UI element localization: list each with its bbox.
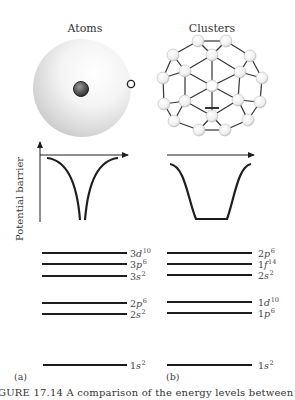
atom-illustration: [33, 39, 135, 137]
level-label-1p6: 1p6: [258, 308, 275, 319]
figure-graphics: [0, 0, 295, 400]
panel-tag-b: (b): [166, 371, 180, 382]
level-label-2p6: 2p6: [130, 298, 147, 309]
figure-caption: GURE 17.14 A comparison of the energy le…: [0, 387, 295, 398]
cluster-energy-levels: [167, 253, 252, 365]
coulomb-well-left-branch: [47, 158, 80, 220]
cluster-illustration: [157, 35, 268, 136]
level-label-3d10: 3d10: [130, 248, 151, 259]
level-label-1f14: 1f14: [258, 259, 276, 270]
atom-potential-plot: [40, 142, 128, 222]
level-label-3s2: 3s2: [130, 271, 146, 282]
level-label-2p6: 2p6: [258, 248, 275, 259]
atom-energy-levels: [42, 253, 127, 365]
level-label-1s2: 1s2: [130, 360, 146, 371]
cluster-potential-plot: [167, 155, 254, 219]
flat-bottom-well: [170, 164, 251, 219]
y-axis-label: Potential barrier: [14, 157, 25, 241]
level-label-3p6: 3p6: [130, 259, 147, 270]
level-label-1s2: 1s2: [258, 360, 274, 371]
nucleus-icon: [74, 82, 89, 97]
coulomb-well-right-branch: [85, 158, 118, 220]
panel-tag-a: (a): [14, 371, 27, 382]
level-label-2s2: 2s2: [130, 309, 146, 320]
electron-icon: [127, 80, 134, 87]
level-label-2s2: 2s2: [258, 270, 274, 281]
level-label-1d10: 1d10: [258, 297, 279, 308]
